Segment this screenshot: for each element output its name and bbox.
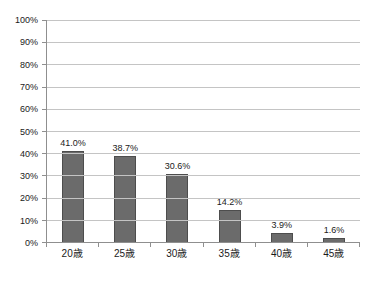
bar-chart: 0%10%20%30%40%50%60%70%80%90%100% 41.0%3… bbox=[0, 0, 381, 283]
x-axis-tick bbox=[359, 242, 360, 247]
gridline bbox=[47, 175, 360, 176]
bar-value-label: 38.7% bbox=[112, 144, 138, 153]
y-axis-tick bbox=[42, 175, 47, 176]
x-axis-category-label: 35歳 bbox=[203, 249, 255, 259]
x-axis-tick bbox=[98, 242, 99, 247]
x-axis-category-label: 20歳 bbox=[46, 249, 98, 259]
gridline bbox=[47, 42, 360, 43]
gridline bbox=[47, 64, 360, 65]
y-axis-tick-label: 80% bbox=[20, 60, 38, 69]
plot-area: 41.0%38.7%30.6%14.2%3.9%1.6% bbox=[46, 20, 360, 243]
gridline bbox=[47, 109, 360, 110]
y-axis-tick bbox=[42, 153, 47, 154]
y-axis-tick-label: 60% bbox=[20, 105, 38, 114]
y-axis-tick bbox=[42, 42, 47, 43]
gridline bbox=[47, 20, 360, 21]
gridline bbox=[47, 131, 360, 132]
y-axis-tick bbox=[42, 20, 47, 21]
y-axis-tick-label: 10% bbox=[20, 216, 38, 225]
y-axis-tick-label: 90% bbox=[20, 38, 38, 47]
bar-value-label: 30.6% bbox=[165, 162, 191, 171]
bar bbox=[219, 210, 241, 242]
x-axis-category-label: 30歳 bbox=[151, 249, 203, 259]
x-axis-tick bbox=[150, 242, 151, 247]
x-axis-category-label: 25歳 bbox=[98, 249, 150, 259]
y-axis-tick-label: 70% bbox=[20, 82, 38, 91]
y-axis-tick-label: 40% bbox=[20, 149, 38, 158]
gridline bbox=[47, 87, 360, 88]
x-axis-category-label: 40歳 bbox=[255, 249, 307, 259]
y-axis-tick-label: 0% bbox=[25, 239, 38, 248]
y-axis-tick bbox=[42, 220, 47, 221]
gridline bbox=[47, 153, 360, 154]
y-axis-tick-label: 30% bbox=[20, 172, 38, 181]
bar bbox=[323, 238, 345, 242]
y-axis-tick bbox=[42, 109, 47, 110]
y-axis-tick bbox=[42, 64, 47, 65]
y-axis-tick-label: 50% bbox=[20, 127, 38, 136]
bar-value-label: 1.6% bbox=[324, 226, 345, 235]
bar bbox=[271, 233, 293, 242]
bar-value-label: 41.0% bbox=[60, 139, 86, 148]
y-axis-tick-label: 20% bbox=[20, 194, 38, 203]
bar bbox=[62, 151, 84, 242]
y-axis-tick bbox=[42, 198, 47, 199]
gridline bbox=[47, 198, 360, 199]
gridline bbox=[47, 220, 360, 221]
bar-value-label: 14.2% bbox=[217, 198, 243, 207]
y-axis-tick bbox=[42, 131, 47, 132]
y-axis-labels: 0%10%20%30%40%50%60%70%80%90%100% bbox=[0, 20, 38, 243]
x-axis-category-label: 45歳 bbox=[308, 249, 360, 259]
bar-value-label: 3.9% bbox=[272, 221, 293, 230]
x-axis-tick bbox=[307, 242, 308, 247]
y-axis-tick bbox=[42, 87, 47, 88]
bar bbox=[114, 156, 136, 242]
bar bbox=[166, 174, 188, 242]
x-axis-tick bbox=[46, 242, 47, 247]
x-axis-tick bbox=[255, 242, 256, 247]
x-axis-tick bbox=[203, 242, 204, 247]
x-axis-labels: 20歳25歳30歳35歳40歳45歳 bbox=[46, 249, 360, 259]
y-axis-tick-label: 100% bbox=[15, 16, 38, 25]
